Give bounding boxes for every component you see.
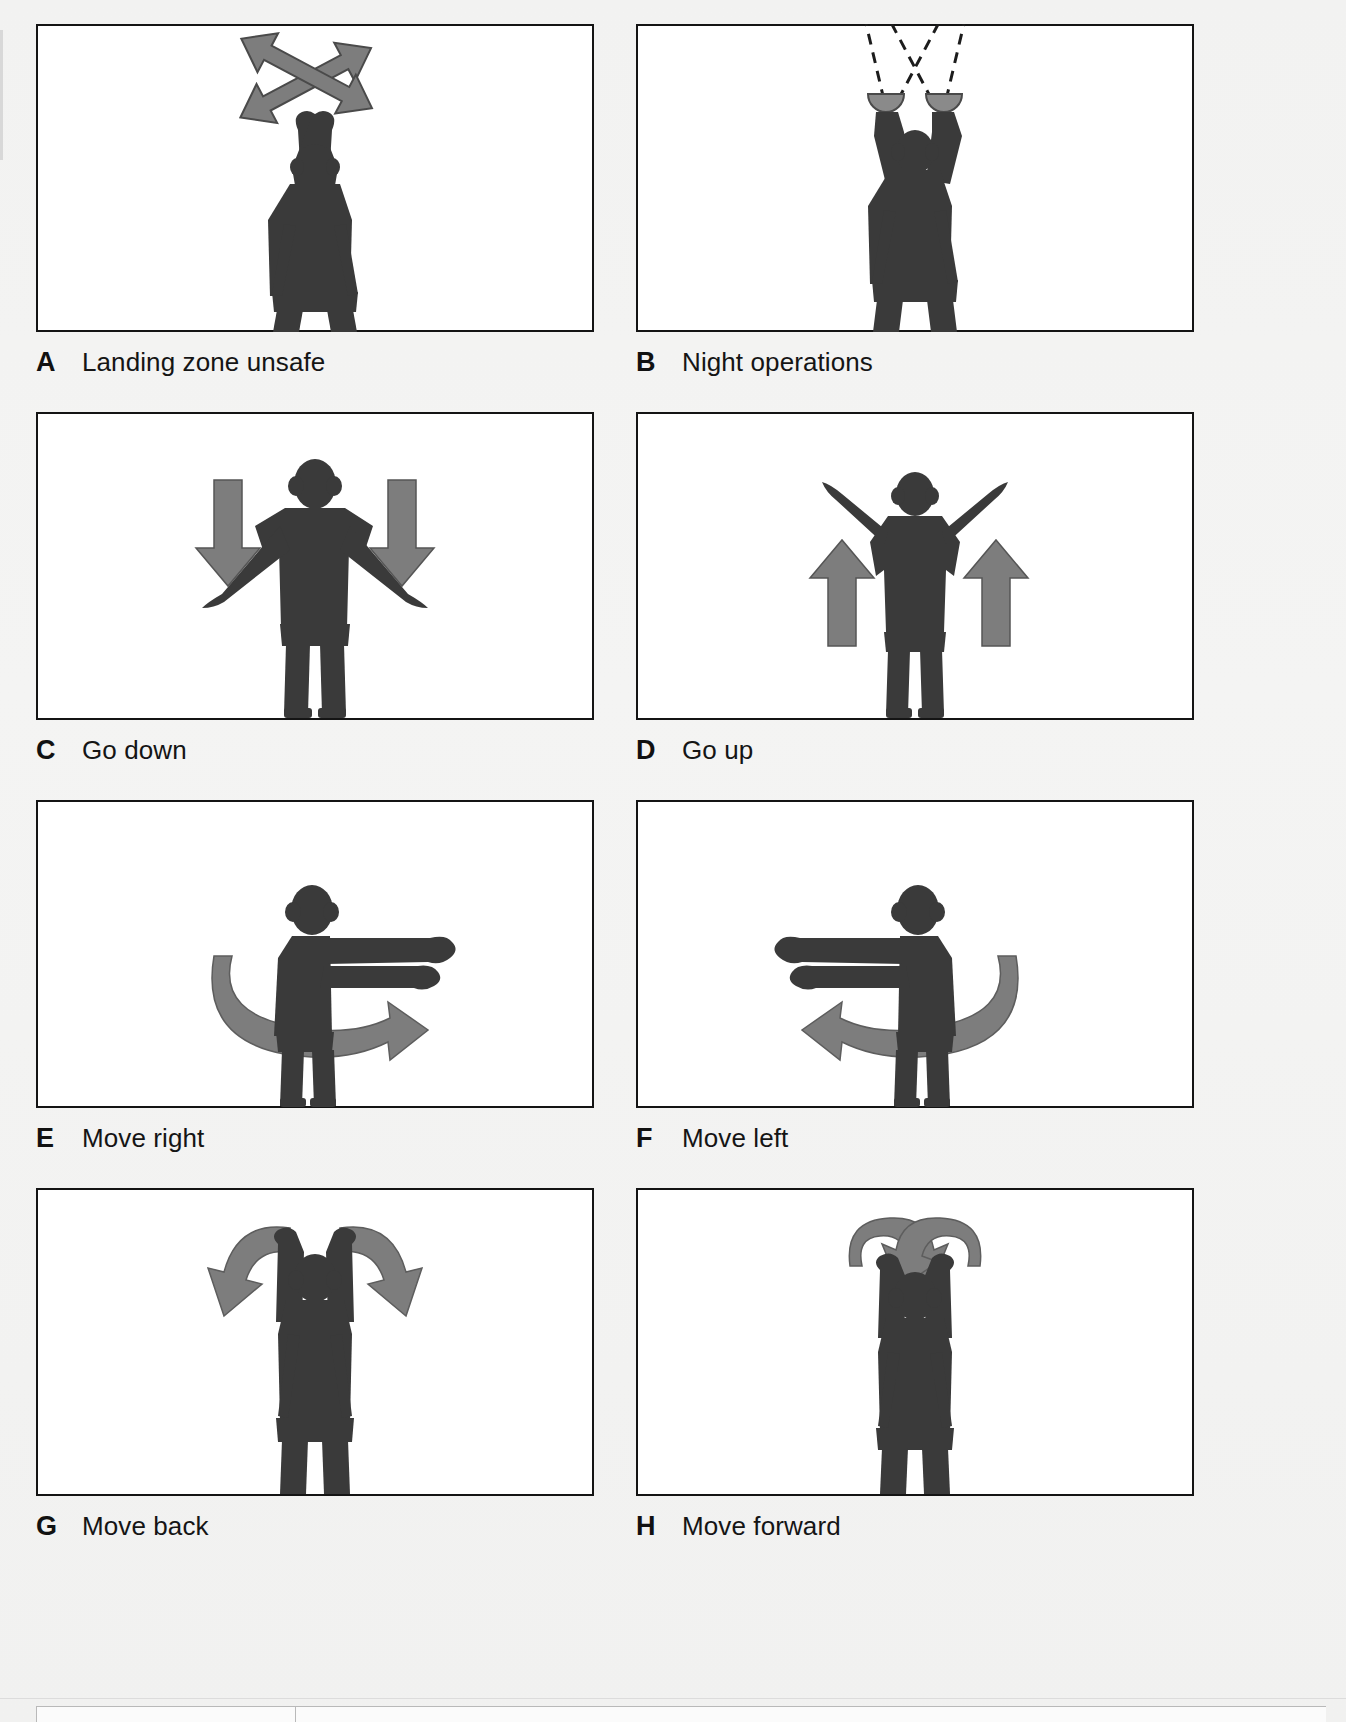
- panel-letter: A: [36, 347, 82, 378]
- signal-illustration-go-down: [36, 412, 594, 720]
- panel-label: Move back: [82, 1511, 209, 1542]
- panel-label: Move right: [82, 1123, 204, 1154]
- panel-go-down: C Go down: [36, 412, 594, 772]
- panel-label: Night operations: [682, 347, 873, 378]
- panel-caption: D Go up: [636, 730, 753, 770]
- page-hairline: [0, 1698, 1346, 1699]
- panel-letter: B: [636, 347, 682, 378]
- panel-caption: G Move back: [36, 1506, 209, 1546]
- panel-letter: G: [36, 1511, 82, 1542]
- panel-label: Go up: [682, 735, 753, 766]
- bottom-table-fragment: [36, 1706, 1326, 1722]
- panel-label: Go down: [82, 735, 187, 766]
- panel-caption: A Landing zone unsafe: [36, 342, 325, 382]
- panel-letter: F: [636, 1123, 682, 1154]
- table-column-divider: [295, 1707, 296, 1722]
- panel-label: Landing zone unsafe: [82, 347, 325, 378]
- panel-move-left: F Move left: [636, 800, 1194, 1160]
- figure-sheet: A Landing zone unsafe: [0, 0, 1346, 1722]
- panel-move-back: G Move back: [36, 1188, 594, 1548]
- signal-illustration-move-back: [36, 1188, 594, 1496]
- signal-illustration-move-right: [36, 800, 594, 1108]
- signal-illustration-move-forward: [636, 1188, 1194, 1496]
- panel-label: Move forward: [682, 1511, 841, 1542]
- signal-illustration-move-left: [636, 800, 1194, 1108]
- panel-caption: C Go down: [36, 730, 187, 770]
- panel-move-right: E Move right: [36, 800, 594, 1160]
- panel-move-forward: H Move forward: [636, 1188, 1194, 1548]
- panel-caption: H Move forward: [636, 1506, 841, 1546]
- signal-illustration-go-up: [636, 412, 1194, 720]
- panel-label: Move left: [682, 1123, 788, 1154]
- panel-go-up: D Go up: [636, 412, 1194, 772]
- panel-caption: F Move left: [636, 1118, 788, 1158]
- panel-letter: E: [36, 1123, 82, 1154]
- panel-landing-zone-unsafe: A Landing zone unsafe: [36, 24, 594, 384]
- signal-illustration-night-operations: [636, 24, 1194, 332]
- panel-letter: H: [636, 1511, 682, 1542]
- signal-illustration-landing-zone-unsafe: [36, 24, 594, 332]
- panel-caption: E Move right: [36, 1118, 204, 1158]
- panel-letter: D: [636, 735, 682, 766]
- panel-caption: B Night operations: [636, 342, 873, 382]
- panel-night-operations: B Night operations: [636, 24, 1194, 384]
- panel-grid: A Landing zone unsafe: [0, 0, 1346, 1722]
- panel-letter: C: [36, 735, 82, 766]
